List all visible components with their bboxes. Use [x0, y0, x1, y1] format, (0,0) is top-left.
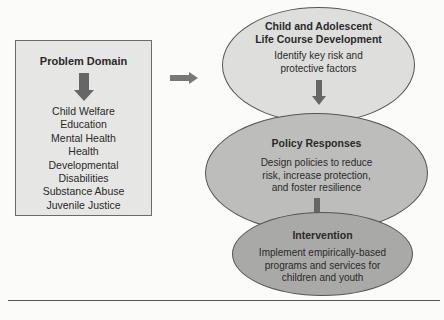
stage-text: Design policies to reduce risk, increase… — [206, 157, 427, 195]
stage-text-line: children and youth — [233, 272, 412, 285]
stage-text-line: Implement empirically-based — [233, 247, 412, 260]
stage-text-line: and foster resilience — [206, 182, 427, 195]
stage-intervention: Intervention Implement empirically-based… — [232, 212, 413, 296]
stage-title-line: Life Course Development — [223, 33, 414, 46]
domain-item: Education — [16, 118, 151, 131]
stage-title: Policy Responses — [206, 137, 427, 150]
domain-item: Disabilities — [16, 172, 151, 185]
domain-item: Mental Health — [16, 132, 151, 145]
down-arrow-icon — [312, 80, 326, 106]
stage-text-line: protective factors — [223, 63, 414, 76]
domain-item: Health — [16, 145, 151, 158]
domain-item: Substance Abuse — [16, 185, 151, 198]
stage-life-course-development: Child and Adolescent Life Course Develop… — [222, 7, 415, 123]
down-arrow-icon — [74, 73, 94, 101]
stage-text: Implement empirically-based programs and… — [233, 247, 412, 285]
stage-text-line: Design policies to reduce — [206, 157, 427, 170]
stage-title-line: Child and Adolescent — [223, 20, 414, 33]
problem-domain-title: Problem Domain — [16, 55, 151, 67]
stage-title: Child and Adolescent Life Course Develop… — [223, 20, 414, 46]
domain-item: Juvenile Justice — [16, 199, 151, 212]
stage-title-line: Policy Responses — [206, 137, 427, 150]
stage-title: Intervention — [233, 229, 412, 242]
stage-text-line: risk, increase protection, — [206, 170, 427, 183]
stage-title-line: Intervention — [233, 229, 412, 242]
stage-text: Identify key risk and protective factors — [223, 50, 414, 75]
problem-domain-box: Problem Domain Child Welfare Education M… — [15, 40, 152, 216]
problem-domain-list: Child Welfare Education Mental Health He… — [16, 105, 151, 212]
domain-item: Developmental — [16, 159, 151, 172]
domain-item: Child Welfare — [16, 105, 151, 118]
divider-line — [8, 300, 440, 301]
stage-text-line: programs and services for — [233, 260, 412, 273]
right-arrow-icon — [170, 72, 198, 84]
stage-text-line: Identify key risk and — [223, 50, 414, 63]
